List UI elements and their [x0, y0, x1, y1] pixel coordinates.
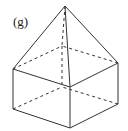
hidden-edge-top_left-top_back	[13, 46, 62, 69]
edge-apex-top_right	[65, 6, 118, 63]
edge-top_front-top_right	[70, 63, 118, 87]
edge-apex-top_left	[13, 6, 65, 69]
edge-bottom_front-bottom_right	[70, 104, 118, 128]
hidden-edge-apex-top_back	[62, 6, 65, 46]
hidden-edge-bottom_left-bottom_back	[13, 87, 62, 109]
visible-edges	[13, 6, 118, 128]
edge-apex-top_front	[65, 6, 70, 87]
pyramid-prism-diagram	[0, 0, 128, 131]
edge-top_left-top_front	[13, 69, 70, 87]
edge-bottom_left-bottom_front	[13, 109, 70, 128]
